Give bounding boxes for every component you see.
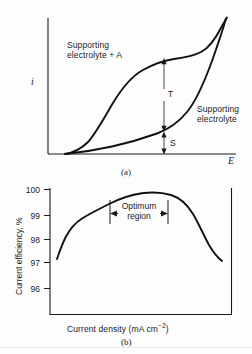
panel-a-label-upper-curve-line1: Supporting bbox=[67, 40, 109, 50]
panel-b-x-axis-label-exponent: −2 bbox=[158, 322, 166, 329]
page-bottom-rule bbox=[0, 347, 252, 348]
panel-a-curve-supporting-electrolyte bbox=[65, 19, 226, 155]
panel-b-x-axis-label-main: Current density (mA cm bbox=[67, 324, 158, 334]
panel-b-y-axis-label: Current efficiency, % bbox=[14, 217, 24, 295]
panel-a-label-upper-curve-line2: electrolyte + A bbox=[67, 50, 122, 60]
panel-b-annotation-label-line1: Optimum bbox=[108, 201, 170, 212]
panel-a-y-axis-label: i bbox=[31, 77, 34, 87]
panel-b-x-axis-label-tail: ) bbox=[166, 324, 169, 334]
panel-a-label-lower-curve-line1: Supporting bbox=[197, 104, 239, 114]
figure-container: Supporting electrolyte + A Supporting el… bbox=[0, 0, 252, 354]
panel-a-annotation-label-t: T bbox=[168, 89, 173, 99]
panel-a-plot bbox=[0, 0, 252, 182]
panel-a-x-axis-label: E bbox=[228, 156, 234, 166]
panel-a-caption: (a) bbox=[121, 167, 131, 177]
panel-b-x-axis-label: Current density (mA cm−2) bbox=[67, 321, 169, 334]
panel-a-annotation-s-arrow bbox=[161, 132, 166, 155]
panel-b-caption: (b) bbox=[121, 337, 132, 347]
panel-a-label-lower-curve-line2: electrolyte bbox=[197, 114, 237, 124]
panel-a-polarisation-curves: Supporting electrolyte + A Supporting el… bbox=[0, 0, 252, 182]
panel-a-annotation-label-s: S bbox=[170, 138, 176, 148]
panel-b-y-tick-label-100: 100 bbox=[18, 185, 40, 195]
panel-b-y-ticks bbox=[44, 190, 50, 289]
panel-b-annotation-label-line2: region bbox=[108, 211, 170, 222]
panel-b-current-efficiency: 100 99 98 97 96 Current efficiency, % Op… bbox=[0, 182, 252, 354]
